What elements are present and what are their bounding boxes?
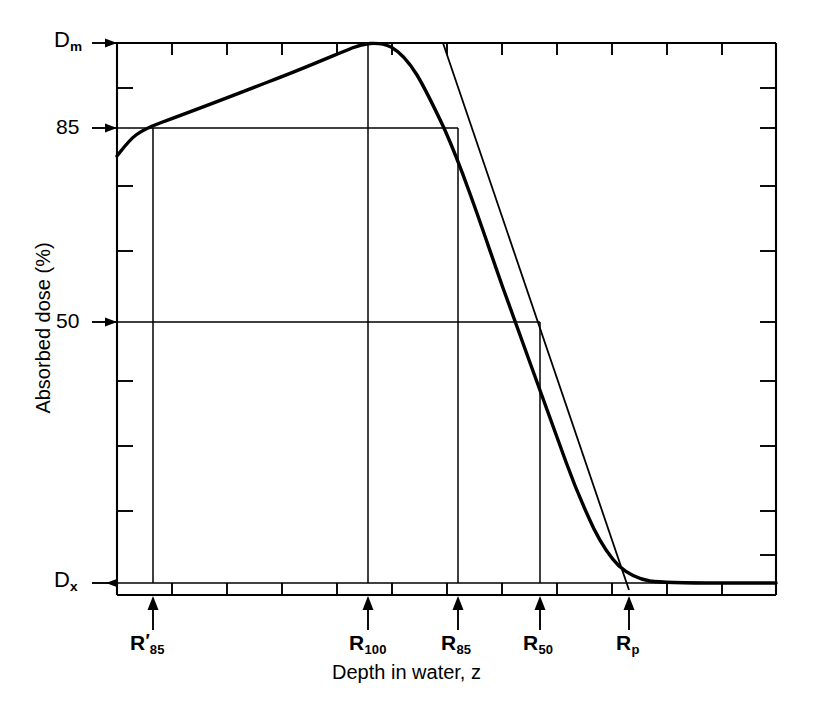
ytick-dx-sub: x (70, 579, 78, 594)
xmark-rp-base: R (616, 631, 631, 654)
xmark-r50-sub: 50 (538, 642, 553, 657)
xmark-label-r85: R85 (441, 632, 471, 656)
x-arrow-r100 (363, 596, 374, 630)
x-arrow-r85-prime (148, 596, 159, 630)
x-arrow-r85 (453, 596, 464, 630)
ytick-label-85: 85 (56, 116, 79, 137)
plot-canvas (0, 0, 813, 713)
xmark-r85-base: R (441, 631, 456, 654)
plot-frame (117, 43, 776, 595)
x-arrow-r50 (535, 596, 546, 630)
ytick-label-dx: Dx (54, 569, 77, 593)
ytick-dm-sub: m (70, 39, 82, 54)
y-axis-title: Absorbed dose (%) (33, 208, 53, 448)
x-arrow-rp (624, 596, 635, 630)
xmark-r85p-sub: 85 (150, 642, 165, 657)
xmark-r100-base: R (349, 631, 364, 654)
ytick-dm-base: D (54, 27, 70, 52)
y-leader-50 (92, 318, 117, 327)
xmark-rp-sub: p (631, 642, 639, 657)
depth-dose-figure: Dm 85 50 Dx R′85 R100 R85 R50 Rp Depth i… (0, 0, 813, 713)
xmark-label-r100: R100 (349, 632, 387, 656)
tangent-line (443, 43, 629, 590)
x-axis-title: Depth in water, z (0, 662, 813, 682)
xmark-r50-base: R (523, 631, 538, 654)
xmark-r85p-base: R (130, 631, 145, 654)
y-leader-85 (92, 124, 117, 133)
ytick-label-dm: Dm (54, 29, 82, 53)
xmark-label-r85-prime: R′85 (130, 632, 165, 656)
y-leader-dx (92, 579, 118, 588)
xmark-label-r50: R50 (523, 632, 553, 656)
ytick-label-50: 50 (56, 310, 79, 331)
ytick-dx-base: D (54, 567, 70, 592)
xmark-r100-sub: 100 (364, 642, 386, 657)
xmark-r85-sub: 85 (456, 642, 471, 657)
y-leader-dm (92, 39, 117, 48)
depth-dose-curve (117, 43, 776, 583)
xmark-label-rp: Rp (616, 632, 640, 656)
right-axis-ticks (760, 88, 776, 555)
bottom-axis-ticks (172, 583, 722, 595)
